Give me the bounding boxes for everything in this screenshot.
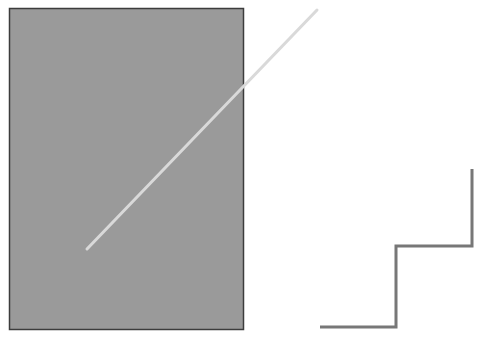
step-line: [320, 169, 472, 327]
gray-rectangle: [10, 9, 244, 330]
diagram-canvas: [0, 0, 486, 338]
